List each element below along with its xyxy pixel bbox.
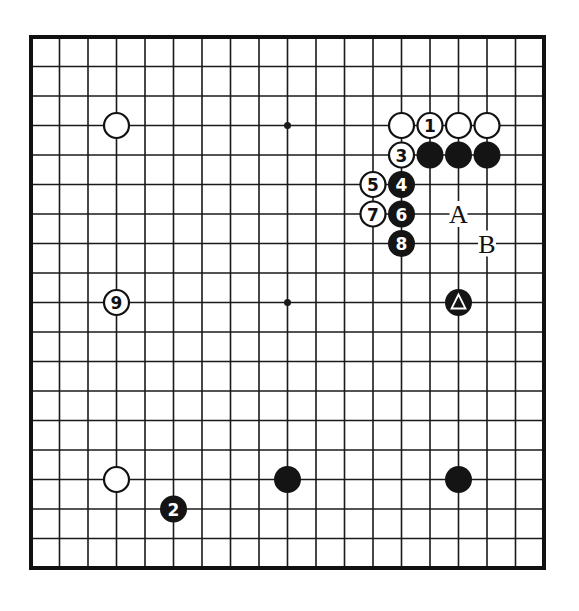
- white-stone: [104, 467, 129, 492]
- position-label-b: B: [478, 230, 495, 259]
- stones: 135476892: [104, 113, 501, 523]
- move-number: 9: [111, 293, 123, 313]
- black-stone: 6: [388, 201, 415, 228]
- star-point: [284, 299, 291, 306]
- white-stone: [104, 113, 129, 138]
- star-point: [284, 122, 291, 129]
- black-stone: [445, 466, 472, 493]
- move-number: 1: [424, 116, 436, 136]
- black-stone: [445, 289, 472, 316]
- move-number: 5: [367, 175, 379, 195]
- move-number: 7: [367, 205, 379, 225]
- black-stone: [474, 142, 501, 169]
- move-number: 8: [396, 234, 408, 254]
- go-board-diagram: AB 135476892: [0, 0, 579, 611]
- move-number: 6: [396, 205, 408, 225]
- black-stone: [274, 466, 301, 493]
- move-number: 4: [396, 175, 408, 195]
- black-stone: 8: [388, 230, 415, 257]
- black-stone: [445, 142, 472, 169]
- white-stone: 9: [104, 290, 129, 315]
- position-letters: AB: [449, 200, 496, 259]
- white-stone: [389, 113, 414, 138]
- white-stone: 3: [389, 143, 414, 168]
- black-stone: 2: [160, 496, 187, 523]
- white-stone: 7: [361, 202, 386, 227]
- move-number: 2: [168, 500, 180, 520]
- black-stone: 4: [388, 171, 415, 198]
- black-stone: [417, 142, 444, 169]
- move-number: 3: [396, 146, 408, 166]
- white-stone: [446, 113, 471, 138]
- white-stone: 5: [361, 172, 386, 197]
- white-stone: 1: [418, 113, 443, 138]
- white-stone: [475, 113, 500, 138]
- position-label-a: A: [449, 200, 468, 229]
